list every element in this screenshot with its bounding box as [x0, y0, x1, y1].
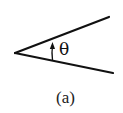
- figure-caption: (a): [56, 89, 75, 106]
- angle-label: θ: [59, 41, 69, 58]
- angle-diagram: θ (a): [0, 0, 123, 113]
- arrowhead-icon: [50, 42, 55, 49]
